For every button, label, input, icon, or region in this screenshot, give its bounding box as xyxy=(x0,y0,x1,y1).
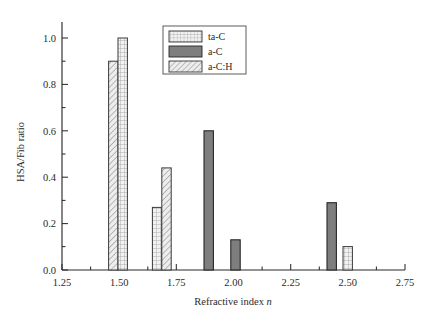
legend-item-ta-C: ta-C xyxy=(169,31,226,42)
y-tick-label: 0.6 xyxy=(43,126,56,137)
bar-taC-1.50 xyxy=(118,38,127,270)
x-tick-label: 1.50 xyxy=(110,277,128,288)
legend-swatch-a-C xyxy=(169,46,202,57)
bar-group-1 xyxy=(109,38,128,270)
legend-swatch-ta-C xyxy=(169,31,202,42)
y-axis-title: HSA/Fib ratio xyxy=(15,122,26,182)
legend: ta-C a-C a-C:H xyxy=(163,26,246,74)
x-axis-title: Refractive index n xyxy=(194,296,272,307)
y-tick-label: 0.2 xyxy=(43,218,56,229)
y-tick-label: 1.0 xyxy=(43,33,56,44)
x-tick-label: 1.75 xyxy=(167,277,185,288)
legend-label-a-C-H: a-C:H xyxy=(208,61,232,72)
figure-container: 0.0 0.2 0.4 0.6 0.8 1.0 1.25 1.50 1.75 2… xyxy=(0,0,432,319)
bar-aC-1.89 xyxy=(204,131,213,270)
legend-swatch-a-C-H xyxy=(169,61,202,72)
x-tick-label: 2.00 xyxy=(224,277,242,288)
bar-aC-2.43 xyxy=(327,203,336,270)
bar-aCH-1.47 xyxy=(109,61,118,270)
bar-chart: 0.0 0.2 0.4 0.6 0.8 1.0 1.25 1.50 1.75 2… xyxy=(0,0,432,319)
x-tick-label: 2.50 xyxy=(339,277,357,288)
legend-item-a-C: a-C xyxy=(169,46,223,57)
bar-aCH-1.68 xyxy=(162,168,171,270)
legend-label-ta-C: ta-C xyxy=(208,31,226,42)
y-tick-label: 0.0 xyxy=(43,265,56,276)
y-tick-label: 0.4 xyxy=(43,172,57,183)
legend-label-a-C: a-C xyxy=(208,46,223,57)
y-tick-label: 0.8 xyxy=(43,79,56,90)
x-tick-label: 2.25 xyxy=(282,277,300,288)
x-tick-label: 1.25 xyxy=(53,277,71,288)
bar-taC-1.66 xyxy=(152,207,161,270)
bar-aC-2.01 xyxy=(231,240,240,270)
x-tick-label: 2.75 xyxy=(396,277,414,288)
legend-item-a-C-H: a-C:H xyxy=(169,61,232,72)
bar-taC-2.50 xyxy=(343,247,352,270)
